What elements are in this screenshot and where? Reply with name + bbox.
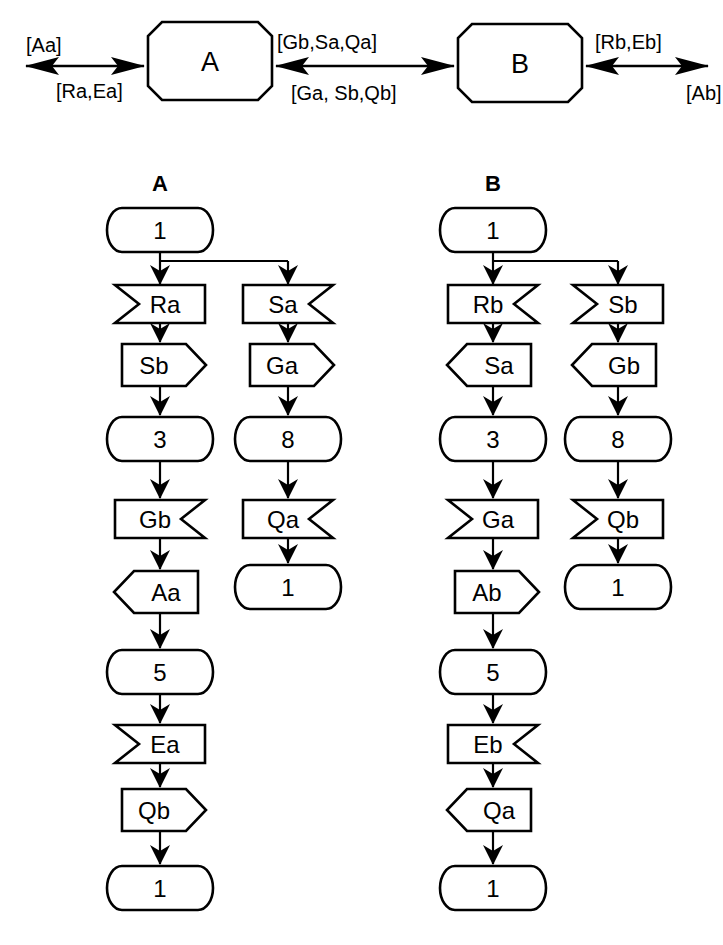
- middle-channel-below-label: [Ga, Sb,Qb]: [291, 82, 397, 104]
- b-right-final-state-label: 1: [611, 574, 624, 601]
- a-state-5-label: 5: [153, 659, 166, 686]
- a-output-ga-label: Ga: [266, 352, 299, 379]
- right-channel-above-label: [Rb,Eb]: [595, 31, 662, 53]
- b-input-sb-label: Sb: [608, 291, 637, 318]
- process-tree-b: B 1 Rb Sa 3 Ga Ab 5 Eb Qa 1: [440, 171, 671, 910]
- a-final-state-label: 1: [153, 875, 166, 902]
- left-channel-below-label: [Ra,Ea]: [56, 80, 123, 102]
- a-state-3-label: 3: [153, 426, 166, 453]
- b-input-qb-label: Qb: [607, 506, 639, 533]
- b-input-eb-label: Eb: [473, 731, 502, 758]
- right-channel-below-label: [Ab]: [686, 82, 722, 104]
- a-input-sa-label: Sa: [268, 291, 298, 318]
- tree-b-title: B: [485, 171, 501, 196]
- left-channel-above-label: [Aa]: [26, 34, 62, 56]
- a-output-aa-label: Aa: [151, 579, 181, 606]
- entity-b-label: B: [511, 49, 529, 79]
- b-final-state-label: 1: [486, 875, 499, 902]
- tree-a-title: A: [152, 171, 168, 196]
- b-output-sa-label: Sa: [484, 352, 514, 379]
- sdl-protocol-diagram: A B [Aa] [Ra,Ea] [Gb,Sa,Qa] [Ga, Sb,Qb] …: [0, 0, 723, 945]
- a-input-qa-label: Qa: [267, 506, 300, 533]
- a-input-ra-label: Ra: [150, 291, 181, 318]
- b-input-ga-label: Ga: [482, 506, 515, 533]
- a-output-sb-label: Sb: [139, 352, 168, 379]
- a-input-gb-label: Gb: [139, 506, 171, 533]
- entity-a-label: A: [201, 47, 219, 77]
- b-output-ab-label: Ab: [472, 579, 501, 606]
- b-output-qa-label: Qa: [483, 797, 516, 824]
- a-initial-state-label: 1: [153, 217, 166, 244]
- a-right-final-state-label: 1: [281, 574, 294, 601]
- a-output-qb-label: Qb: [138, 797, 170, 824]
- a-input-ea-label: Ea: [150, 731, 180, 758]
- scanned-diagram-page: A B [Aa] [Ra,Ea] [Gb,Sa,Qa] [Ga, Sb,Qb] …: [0, 0, 723, 945]
- b-state-3-label: 3: [486, 426, 499, 453]
- b-state-8-label: 8: [611, 426, 624, 453]
- b-initial-state-label: 1: [486, 217, 499, 244]
- process-tree-a: A 1 Ra Sb 3 Gb Aa 5 Ea Qb 1: [107, 171, 341, 910]
- a-state-8-label: 8: [281, 426, 294, 453]
- b-input-rb-label: Rb: [473, 291, 504, 318]
- middle-channel-above-label: [Gb,Sa,Qa]: [277, 31, 377, 53]
- b-state-5-label: 5: [486, 659, 499, 686]
- b-output-gb-label: Gb: [608, 352, 640, 379]
- channel-diagram: A B [Aa] [Ra,Ea] [Gb,Sa,Qa] [Ga, Sb,Qb] …: [26, 22, 722, 104]
